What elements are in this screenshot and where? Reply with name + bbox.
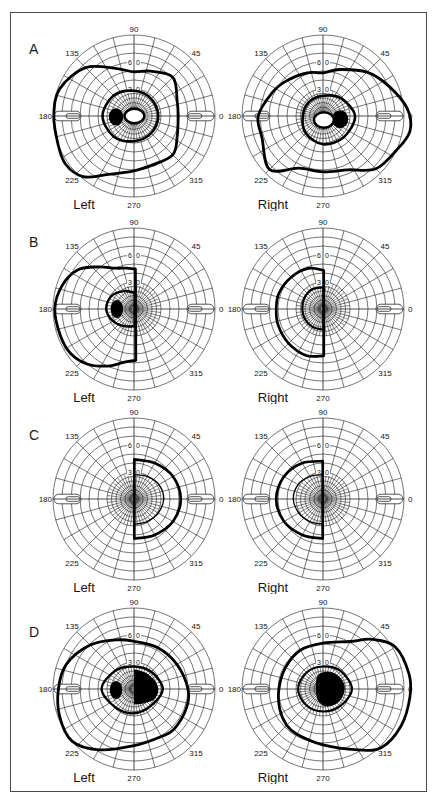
angle-label-135: 135 [254,622,268,631]
angle-label-270: 270 [316,774,330,783]
angle-label-225: 225 [254,749,268,758]
angle-label-0: 0 [408,305,413,314]
eye-label: Right [258,770,289,784]
scotomas [111,300,124,318]
goldmann-chart-b-right: 904503152702251801353060Right [227,214,419,404]
perimetry-plot: 904503152702251801353060Left [38,404,230,594]
radial-label-30: 0 [136,659,140,666]
radial-label-60: 0 [136,59,140,66]
angle-label-90: 90 [130,25,139,34]
radial-label-30: 3 [317,86,321,93]
angle-label-135: 135 [65,432,79,441]
angle-label-315: 315 [378,369,392,378]
angle-label-90: 90 [319,218,328,227]
perimetry-plot: 904503152702251801353060Right [227,594,419,784]
angle-label-225: 225 [65,369,79,378]
angle-label-270: 270 [127,584,141,593]
perimetry-plot: 904503152702251801353060Left [38,21,230,211]
angle-label-0: 0 [408,495,413,504]
radial-label-60: 6 [317,252,321,259]
angle-label-45: 45 [192,432,201,441]
angle-label-315: 315 [189,749,203,758]
angle-label-90: 90 [319,408,328,417]
angle-label-0: 0 [219,685,224,694]
angle-label-180: 180 [228,685,242,694]
goldmann-chart-b-left: 904503152702251801353060Left [38,214,230,404]
scotoma [111,300,124,318]
eye-label: Left [73,197,95,211]
angle-label-270: 270 [127,394,141,403]
angle-label-270: 270 [316,394,330,403]
goldmann-chart-c-right: 904503152702251801353060Right [227,404,419,594]
figure-frame: A B C D 904503152702251801353060Left 904… [10,12,427,792]
radial-label-60: 0 [136,252,140,259]
angle-label-90: 90 [130,408,139,417]
radial-label-60: 0 [325,442,329,449]
angle-label-225: 225 [65,749,79,758]
perimetry-plot: 904503152702251801353060Left [38,214,230,404]
perimetry-plot: 904503152702251801353060Right [227,214,419,404]
angle-label-135: 135 [65,622,79,631]
angle-label-0: 0 [219,495,224,504]
angle-label-45: 45 [192,242,201,251]
scotoma [110,681,123,699]
angle-label-135: 135 [65,49,79,58]
angle-label-270: 270 [127,774,141,783]
radial-label-60: 6 [128,442,132,449]
angle-label-315: 315 [189,176,203,185]
goldmann-chart-a-right: 904503152702251801353060Right [227,21,419,211]
goldmann-chart-d-right: 904503152702251801353060Right [227,594,419,784]
scotomas [109,108,148,125]
angle-label-180: 180 [39,685,53,694]
radial-label-60: 0 [325,632,329,639]
eye-label: Left [73,390,95,404]
radial-label-60: 0 [325,59,329,66]
perimetry-plot: 904503152702251801353060Right [227,404,419,594]
eye-label: Right [258,580,289,594]
radial-label-60: 6 [128,252,132,259]
radial-label-30: 3 [128,279,132,286]
isopter-curves [55,267,136,366]
isopter [55,267,136,366]
scotoma [314,112,334,127]
angle-label-180: 180 [228,112,242,121]
angle-label-180: 180 [39,305,53,314]
radial-label-30: 0 [325,469,329,476]
angle-label-45: 45 [381,622,390,631]
radial-label-60: 0 [325,252,329,259]
perimetry-plot: 904503152702251801353060Left [38,594,230,784]
radial-label-30: 0 [325,659,329,666]
angle-label-135: 135 [254,242,268,251]
angle-label-90: 90 [130,218,139,227]
radial-label-60: 6 [317,632,321,639]
goldmann-chart-c-left: 904503152702251801353060Left [38,404,230,594]
angle-label-270: 270 [316,584,330,593]
angle-label-270: 270 [316,201,330,210]
perimetry-plot: 904503152702251801353060Right [227,21,419,211]
angle-label-0: 0 [219,112,224,121]
angle-label-225: 225 [254,369,268,378]
angle-label-45: 45 [381,242,390,251]
angle-label-90: 90 [319,598,328,607]
radial-label-30: 3 [317,279,321,286]
scotoma [109,108,123,125]
eye-label: Left [73,770,95,784]
scotomas [316,672,345,707]
angle-label-225: 225 [65,559,79,568]
radial-label-60: 0 [136,442,140,449]
angle-label-315: 315 [378,176,392,185]
radial-label-30: 3 [317,659,321,666]
angle-label-225: 225 [254,176,268,185]
angle-label-180: 180 [228,495,242,504]
scotoma [125,109,145,123]
eye-label: Right [258,390,289,404]
angle-label-180: 180 [39,495,53,504]
angle-label-90: 90 [130,598,139,607]
angle-label-45: 45 [192,622,201,631]
angle-label-225: 225 [254,559,268,568]
angle-label-45: 45 [381,432,390,441]
angle-label-45: 45 [381,49,390,58]
row-label-a: A [29,41,38,57]
radial-label-60: 6 [317,442,321,449]
radial-label-30: 3 [128,659,132,666]
